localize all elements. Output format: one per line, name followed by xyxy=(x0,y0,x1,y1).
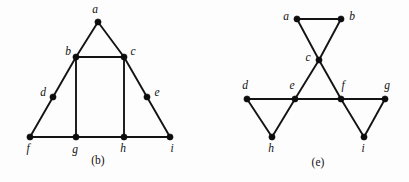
graph-edge xyxy=(272,99,295,137)
graph-edge xyxy=(98,22,124,57)
vertex-label: g xyxy=(384,79,390,92)
vertex-group: abcdefghi xyxy=(242,10,390,154)
graph-vertex xyxy=(338,16,344,22)
edge-group xyxy=(247,19,385,137)
vertex-label: a xyxy=(283,10,289,22)
graph-vertex xyxy=(382,96,388,102)
graph-edge xyxy=(364,99,385,137)
vertex-label: h xyxy=(268,142,274,154)
graph-figure-canvas: abcdefghi(b)abcdefghi(e) xyxy=(0,0,409,182)
vertex-label: f xyxy=(26,142,31,155)
graph-vertex xyxy=(316,57,322,63)
graph-edge xyxy=(124,57,147,97)
graph-vertex xyxy=(244,96,250,102)
vertex-label: e xyxy=(154,86,159,98)
graph-vertex xyxy=(292,96,298,102)
panel-e: abcdefghi(e) xyxy=(242,10,390,169)
graph-vertex xyxy=(95,19,101,25)
figure-container: abcdefghi(b)abcdefghi(e) xyxy=(0,0,409,182)
vertex-label: d xyxy=(40,86,46,98)
graph-edge xyxy=(76,22,98,57)
graph-vertex xyxy=(167,134,173,140)
vertex-label: d xyxy=(242,79,248,91)
vertex-label: c xyxy=(305,51,310,63)
vertex-label: f xyxy=(341,79,346,92)
vertex-label: b xyxy=(349,10,355,22)
graph-edge xyxy=(341,99,364,137)
graph-vertex xyxy=(121,134,127,140)
vertex-label: c xyxy=(130,45,135,57)
graph-vertex xyxy=(144,94,150,100)
panel-b: abcdefghi(b) xyxy=(26,3,173,167)
graph-vertex xyxy=(50,94,56,100)
panel-caption: (b) xyxy=(91,154,105,167)
graph-vertex xyxy=(361,134,367,140)
graph-edge xyxy=(319,19,341,60)
panel-caption: (e) xyxy=(312,156,325,169)
graph-vertex xyxy=(73,54,79,60)
vertex-label: i xyxy=(170,142,173,154)
graph-vertex xyxy=(294,16,300,22)
vertex-label: i xyxy=(361,142,364,154)
graph-vertex xyxy=(338,96,344,102)
vertex-label: h xyxy=(120,142,126,154)
vertex-label: e xyxy=(289,79,294,91)
vertex-label: b xyxy=(65,45,71,57)
graph-edge xyxy=(147,97,170,137)
graph-edge xyxy=(295,60,319,99)
graph-edge xyxy=(30,97,53,137)
graph-vertex xyxy=(269,134,275,140)
graph-vertex xyxy=(73,134,79,140)
graph-edge xyxy=(319,60,341,99)
vertex-label: g xyxy=(72,143,78,156)
graph-vertex xyxy=(27,134,33,140)
edge-group xyxy=(30,22,170,137)
graph-vertex xyxy=(121,54,127,60)
vertex-label: a xyxy=(92,3,98,15)
graph-edge xyxy=(247,99,272,137)
graph-edge xyxy=(53,57,76,97)
